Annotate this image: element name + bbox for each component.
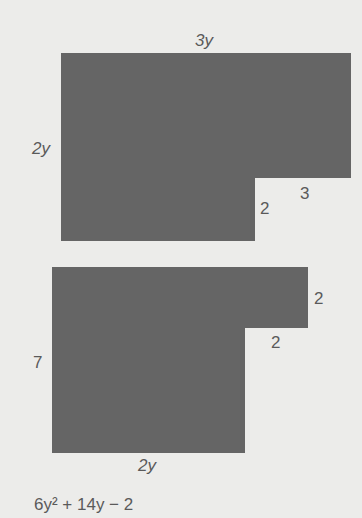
figure-2-label-notch-horizontal: 2 <box>271 334 280 351</box>
figure-2-label-right: 2 <box>314 290 323 307</box>
figure-2-main-block <box>52 327 245 453</box>
figure-1-label-left: 2y <box>32 140 50 157</box>
figure-2-label-bottom: 2y <box>138 457 156 474</box>
figure-1-label-notch-vertical: 2 <box>260 200 269 217</box>
figure-1-label-notch-horizontal: 3 <box>300 185 309 202</box>
figure-2-top-block <box>52 267 308 328</box>
figure-1-bottom-block <box>61 177 255 241</box>
figure-2-label-left: 7 <box>33 354 42 371</box>
figure-1-top-block <box>61 53 351 178</box>
answer-expression: 6y² + 14y − 2 <box>34 495 133 515</box>
figure-1-label-top: 3y <box>195 32 213 49</box>
